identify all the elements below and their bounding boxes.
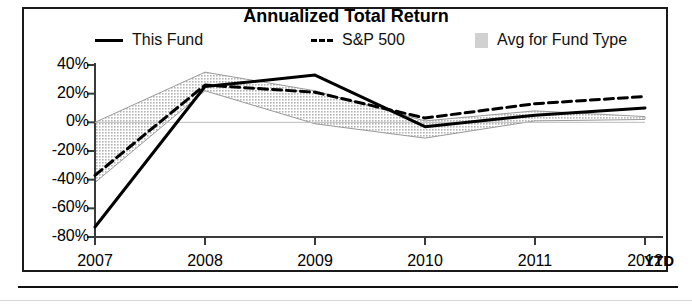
- x-axis-tick-label: 2008: [165, 252, 245, 270]
- chart-figure: Annualized Total Return This Fund S&P 50…: [0, 0, 692, 306]
- x-axis-tick-label: 2009: [275, 252, 355, 270]
- x-axis-tick-label: 2010: [385, 252, 465, 270]
- x-axis-tick-label: 2007: [55, 252, 135, 270]
- x-axis-ytd-label: YTD: [644, 252, 674, 269]
- footer-rule: [18, 286, 678, 288]
- x-axis-tick-label: 2011: [495, 252, 575, 270]
- footer-rule-secondary: [0, 300, 692, 301]
